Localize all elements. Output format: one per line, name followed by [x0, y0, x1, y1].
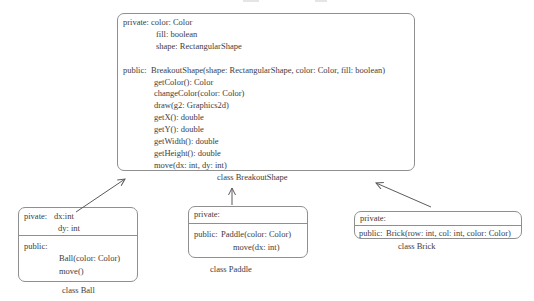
- method: Ball(color: Color): [19, 252, 137, 264]
- method: move(dx: int): [189, 241, 307, 254]
- public-section: public:Brick(row: int, col: int, color: …: [355, 226, 521, 239]
- method: getY(): double: [118, 124, 414, 136]
- method: getX(): double: [118, 112, 414, 124]
- method: getColor(): Color: [118, 77, 414, 89]
- public-label: public:: [359, 228, 386, 239]
- public-section: public: Ball(color: Color) move(): [19, 236, 137, 277]
- public-label: public:: [19, 240, 137, 252]
- public-label: public:: [194, 228, 221, 241]
- cropped-text-artifact: [243, 0, 259, 2]
- uml-class-diagram: private:color: Color fill: boolean shape…: [0, 0, 534, 301]
- private-label: private:: [123, 17, 151, 29]
- private-section: pivate:dx:int dy: int: [19, 208, 137, 236]
- blank-line: [118, 53, 414, 65]
- field: color: Color: [151, 17, 192, 27]
- method: move(dx: int, dy: int): [118, 160, 414, 172]
- method: Brick(row: int, col: int, color: Color): [386, 228, 511, 238]
- method: Paddle(color: Color): [221, 229, 291, 239]
- method: draw(g2: Graphics2d): [118, 100, 414, 112]
- private-section: private:: [355, 212, 521, 226]
- private-label: pivate:: [24, 210, 54, 222]
- field: dy: int: [19, 222, 137, 234]
- method: getWidth(): double: [118, 136, 414, 148]
- field: dx:int: [54, 211, 74, 221]
- method: BreakoutShape(shape: RectangularShape, c…: [151, 65, 385, 75]
- class-box-brick: private: public:Brick(row: int, col: int…: [354, 211, 522, 239]
- private-section-row: pivate:dx:int: [19, 210, 137, 222]
- field: shape: RectangularShape: [118, 41, 414, 53]
- cropped-text-artifact: [315, 0, 327, 2]
- class-box-paddle: private: public:Paddle(color: Color) mov…: [188, 206, 308, 258]
- public-section-row: public:Paddle(color: Color): [189, 228, 307, 241]
- private-section-row: private:color: Color: [118, 17, 414, 29]
- arrow-brick-to-breakoutshape: [376, 183, 431, 207]
- caption-brick: class Brick: [398, 241, 436, 252]
- private-label: private:: [189, 209, 307, 221]
- public-section-row: public:Brick(row: int, col: int, color: …: [355, 228, 521, 239]
- public-section: public:Paddle(color: Color) move(dx: int…: [189, 224, 307, 254]
- class-box-breakoutshape: private:color: Color fill: boolean shape…: [117, 13, 415, 171]
- private-label: private:: [355, 213, 521, 224]
- public-label: public:: [123, 65, 151, 77]
- method: changeColor(color: Color): [118, 88, 414, 100]
- class-box-ball: pivate:dx:int dy: int public: Ball(color…: [18, 207, 138, 282]
- caption-ball: class Ball: [62, 285, 95, 296]
- public-section-row: public:BreakoutShape(shape: RectangularS…: [118, 65, 414, 77]
- caption-paddle: class Paddle: [210, 264, 252, 275]
- field: fill: boolean: [118, 29, 414, 41]
- caption-breakoutshape: class BreakoutShape: [217, 172, 288, 183]
- method: move(): [19, 265, 137, 277]
- private-section: private:: [189, 207, 307, 224]
- method: getHeight(): double: [118, 148, 414, 160]
